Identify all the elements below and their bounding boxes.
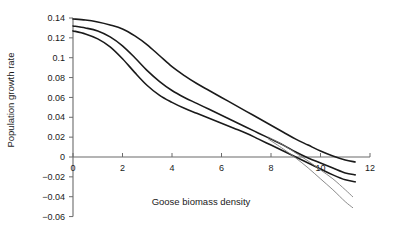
axes bbox=[73, 18, 370, 217]
y-tick-label: 0.12 bbox=[47, 33, 65, 43]
y-axis-label: Population growth rate bbox=[5, 52, 16, 147]
y-tick-label: 0.02 bbox=[47, 132, 65, 142]
y-tick-label: 0.06 bbox=[47, 93, 65, 103]
x-tick-label: 12 bbox=[365, 163, 375, 173]
y-tick-label: −0.02 bbox=[42, 172, 65, 182]
x-tick-label: 6 bbox=[219, 163, 224, 173]
data-curve bbox=[73, 26, 355, 175]
x-axis-ticks: 024681012 bbox=[70, 153, 375, 173]
x-tick-label: 4 bbox=[169, 163, 174, 173]
y-tick-label: 0 bbox=[60, 152, 65, 162]
data-curves bbox=[73, 19, 355, 208]
x-axis-label: Goose biomass density bbox=[152, 196, 251, 207]
y-tick-label: −0.04 bbox=[42, 192, 65, 202]
x-tick-label: 0 bbox=[70, 163, 75, 173]
y-tick-label: 0.14 bbox=[47, 13, 65, 23]
y-tick-label: −0.06 bbox=[42, 212, 65, 222]
population-growth-rate-chart: 024681012 −0.06−0.04−0.0200.020.040.060.… bbox=[0, 0, 403, 231]
y-tick-label: 0.08 bbox=[47, 73, 65, 83]
y-tick-label: 0.04 bbox=[47, 112, 65, 122]
chart-figure: 024681012 −0.06−0.04−0.0200.020.040.060.… bbox=[0, 0, 403, 231]
x-tick-label: 8 bbox=[268, 163, 273, 173]
y-tick-label: 0.1 bbox=[52, 53, 65, 63]
y-axis-ticks: −0.06−0.04−0.0200.020.040.060.080.10.120… bbox=[42, 13, 73, 222]
x-tick-label: 2 bbox=[120, 163, 125, 173]
